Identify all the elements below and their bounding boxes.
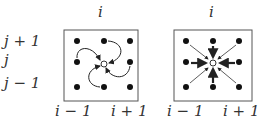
row-label-j: j (4, 53, 9, 68)
right-bottom-label-i-plus-1: i + 1 (223, 104, 259, 119)
row-label-j-minus-1: j − 1 (4, 76, 40, 91)
right-top-label: i (209, 5, 214, 20)
right-panel (174, 30, 252, 101)
left-center-point (101, 61, 107, 67)
left-panel (64, 30, 138, 101)
row-label-j-plus-1: j + 1 (4, 34, 40, 49)
left-bottom-label-i-plus-1: i + 1 (111, 104, 147, 119)
left-top-label: i (98, 5, 103, 20)
right-center-point (210, 60, 216, 66)
left-bottom-label-i-minus-1: i − 1 (55, 104, 91, 119)
right-bottom-label-i-minus-1: i − 1 (167, 104, 203, 119)
